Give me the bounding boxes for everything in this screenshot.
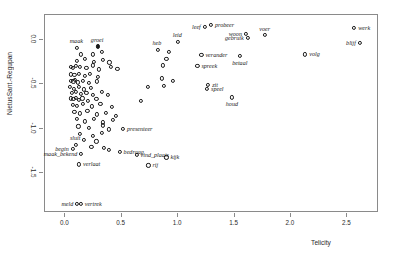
point-label: leid	[173, 32, 182, 38]
point-label: probeer	[215, 22, 234, 28]
y-tick-mark	[39, 172, 43, 173]
x-tick-mark	[290, 213, 291, 217]
point-label: rij	[152, 162, 158, 168]
point-label: gebruik	[225, 35, 244, 41]
point-label: volg	[309, 51, 320, 57]
x-tick-mark	[346, 213, 347, 217]
y-tick-label: -1.0	[30, 122, 37, 133]
point-label: vind_plaats	[141, 152, 169, 158]
point-label: leef	[192, 24, 201, 30]
y-tick-mark	[39, 83, 43, 84]
point-label: voer	[259, 26, 270, 32]
scatter-plot-figure: Telicity NietusSant.-Regupan 0.00.51.01.…	[0, 0, 393, 264]
point-label: meld	[61, 201, 73, 207]
point-label: maak	[70, 38, 83, 44]
point-label: blijf	[346, 40, 356, 46]
point-label: groei	[91, 37, 104, 43]
y-tick-label: 0.0	[30, 34, 37, 43]
x-tick-label: 2.5	[342, 219, 351, 226]
point-label: presenteer	[127, 126, 153, 132]
y-tick-mark	[39, 128, 43, 129]
y-axis-title: NietusSant.-Regupan	[6, 52, 13, 115]
x-axis-title: Telicity	[311, 239, 331, 246]
point-label: kijk	[170, 154, 179, 160]
x-tick-mark	[234, 213, 235, 217]
x-tick-label: 1.0	[173, 219, 182, 226]
point-label: speel	[211, 86, 224, 92]
point-label: betaal	[232, 60, 247, 66]
y-tick-label: -0.5	[30, 78, 37, 89]
x-tick-label: 0.5	[116, 219, 125, 226]
y-tick-mark	[39, 39, 43, 40]
point-label: maak_bekend	[44, 151, 78, 157]
x-tick-label: 2.0	[286, 219, 295, 226]
point-label: vertrek	[85, 201, 102, 207]
point-label: heb	[153, 40, 162, 46]
point-label: verander	[205, 52, 227, 58]
point-label: sluit	[70, 135, 81, 141]
point-label: werk	[358, 25, 370, 31]
x-tick-label: 0.0	[60, 219, 69, 226]
point-label: houd	[226, 101, 238, 107]
point-label: spreek	[201, 63, 217, 69]
x-tick-mark	[177, 213, 178, 217]
x-tick-mark	[121, 213, 122, 217]
x-tick-label: 1.5	[229, 219, 238, 226]
x-tick-mark	[64, 213, 65, 217]
point-label: verlaat	[83, 161, 100, 167]
y-tick-label: -1.5	[30, 167, 37, 178]
